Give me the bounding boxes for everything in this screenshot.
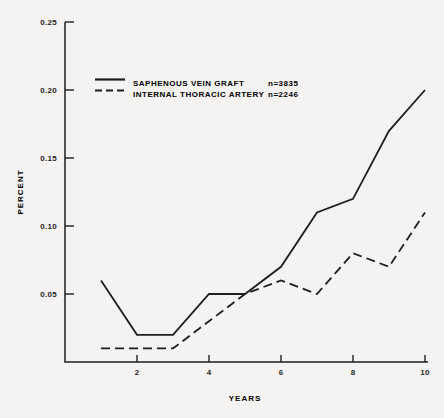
- legend-n-value-internal-thoracic-artery: n=2246: [268, 90, 298, 99]
- solid-line-glyph: [95, 78, 125, 81]
- dashed-line-glyph: [95, 89, 125, 92]
- legend-row-saphenous-vein-graft: SAPHENOUS VEIN GRAFT n=3835: [95, 78, 264, 89]
- axes-line: [65, 22, 428, 362]
- legend: SAPHENOUS VEIN GRAFT n=3835 INTERNAL THO…: [95, 78, 264, 100]
- legend-label-saphenous-vein-graft: SAPHENOUS VEIN GRAFT: [133, 79, 244, 88]
- y-tick-label: 0.25: [40, 18, 57, 27]
- y-tick-label: 0.20: [40, 86, 57, 95]
- legend-row-internal-thoracic-artery: INTERNAL THORACIC ARTERY n=2246: [95, 89, 264, 100]
- patency-line-chart-figure: 0.250.200.150.100.05246810 PERCENT YEARS…: [0, 0, 444, 418]
- x-tick-label: 6: [279, 368, 284, 377]
- x-axis-title: YEARS: [229, 394, 262, 403]
- x-tick-label: 4: [207, 368, 212, 377]
- y-tick-label: 0.15: [40, 154, 57, 163]
- y-tick-label: 0.05: [40, 290, 57, 299]
- x-tick-label: 2: [135, 368, 140, 377]
- legend-label-internal-thoracic-artery: INTERNAL THORACIC ARTERY: [133, 90, 264, 99]
- series-line-solid: [101, 90, 425, 335]
- y-axis-title: PERCENT: [16, 169, 25, 214]
- x-tick-label: 10: [420, 368, 430, 377]
- line-chart-canvas: 0.250.200.150.100.05246810: [0, 0, 444, 418]
- legend-n-value-saphenous-vein-graft: n=3835: [268, 79, 298, 88]
- x-tick-label: 8: [351, 368, 356, 377]
- y-tick-label: 0.10: [40, 222, 57, 231]
